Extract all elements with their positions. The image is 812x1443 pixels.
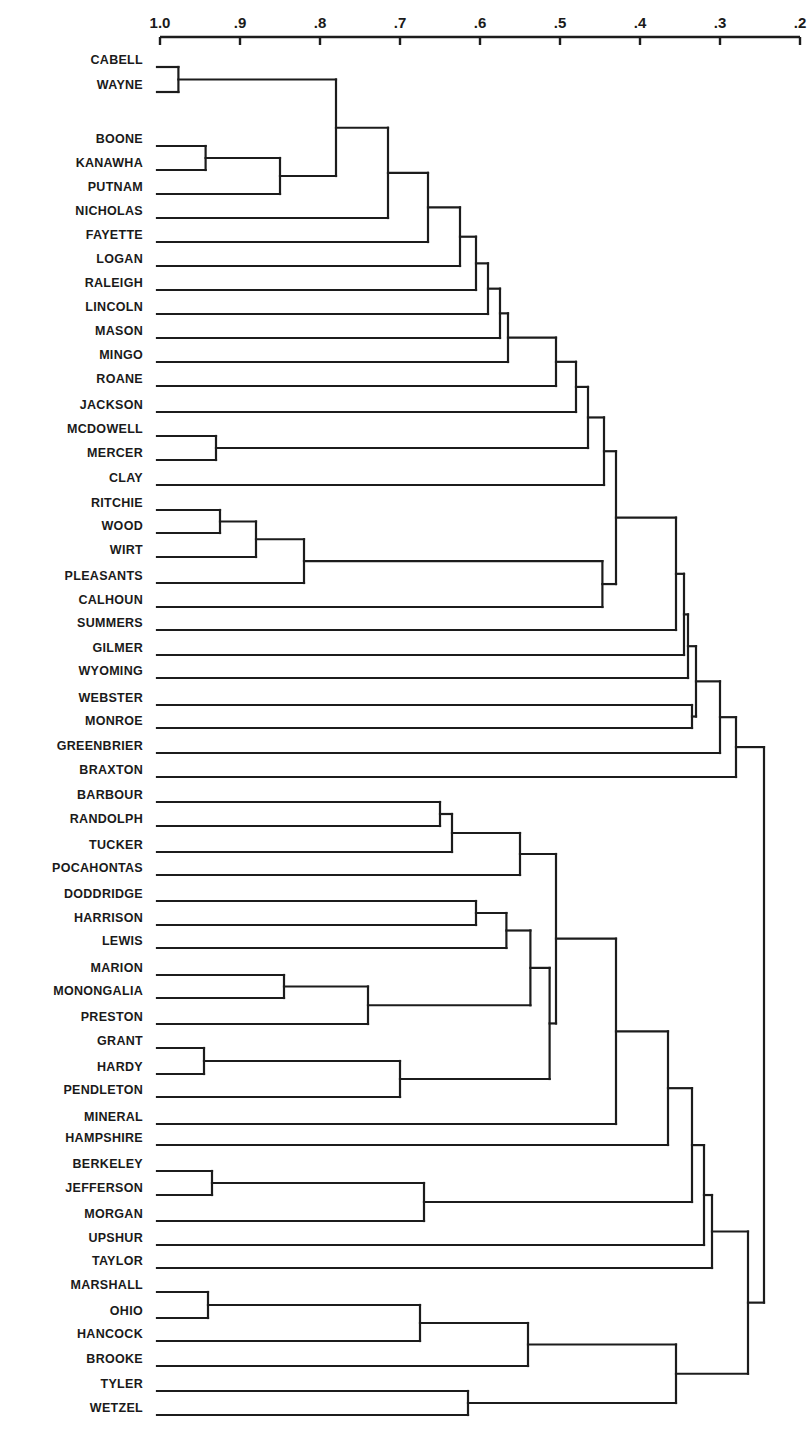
county-label: MONONGALIA — [53, 984, 143, 998]
county-label: MINGO — [99, 348, 143, 362]
county-label: WIRT — [110, 543, 143, 557]
county-label: CALHOUN — [78, 593, 143, 607]
dendrogram-chart: 1.0.9.8.7.6.5.4.3.2 CABELLWAYNEBOONEKANA… — [0, 0, 812, 1443]
axis-tick-label: .7 — [394, 14, 407, 31]
axis-tick-label: .9 — [234, 14, 247, 31]
county-label: TAYLOR — [92, 1254, 143, 1268]
county-label: LEWIS — [102, 934, 143, 948]
county-label: NICHOLAS — [75, 204, 143, 218]
county-label: GREENBRIER — [57, 739, 143, 753]
county-label: WEBSTER — [78, 691, 143, 705]
county-label: MORGAN — [84, 1207, 143, 1221]
county-label: BRAXTON — [79, 763, 143, 777]
county-label: MERCER — [87, 446, 143, 460]
axis-tick-label: .8 — [314, 14, 327, 31]
county-label: HARRISON — [74, 911, 143, 925]
county-label: HAMPSHIRE — [65, 1131, 143, 1145]
county-label: WETZEL — [90, 1401, 143, 1415]
county-label: PRESTON — [81, 1010, 143, 1024]
county-label: PENDLETON — [63, 1083, 143, 1097]
county-label: FAYETTE — [86, 228, 143, 242]
county-label: TUCKER — [89, 838, 143, 852]
county-label: CLAY — [109, 471, 143, 485]
county-label: GRANT — [97, 1034, 143, 1048]
axis-tick-label: 1.0 — [150, 14, 171, 31]
county-label: HARDY — [97, 1060, 143, 1074]
county-label: MASON — [95, 324, 143, 338]
axis-tick-label: .2 — [794, 14, 807, 31]
county-label: RANDOLPH — [70, 812, 143, 826]
county-label: JEFFERSON — [65, 1181, 143, 1195]
county-labels: CABELLWAYNEBOONEKANAWHAPUTNAMNICHOLASFAY… — [52, 53, 143, 1415]
county-label: WOOD — [102, 519, 143, 533]
county-label: HANCOCK — [77, 1327, 143, 1341]
axis-tick-label: .6 — [474, 14, 487, 31]
dendrogram-tree — [157, 67, 764, 1415]
county-label: UPSHUR — [88, 1231, 143, 1245]
axis-tick-label: .5 — [554, 14, 567, 31]
county-label: BARBOUR — [77, 788, 143, 802]
county-label: JACKSON — [80, 398, 143, 412]
county-label: KANAWHA — [76, 156, 143, 170]
county-label: GILMER — [93, 641, 143, 655]
axis-tick-label: .4 — [634, 14, 647, 31]
county-label: MINERAL — [84, 1110, 143, 1124]
county-label: LOGAN — [96, 252, 143, 266]
county-label: LINCOLN — [85, 300, 143, 314]
county-label: DODDRIDGE — [64, 887, 143, 901]
county-label: RALEIGH — [85, 276, 143, 290]
county-label: WAYNE — [97, 78, 143, 92]
county-label: MARSHALL — [70, 1278, 143, 1292]
county-label: PLEASANTS — [65, 569, 143, 583]
county-label: POCAHONTAS — [52, 861, 143, 875]
county-label: ROANE — [96, 372, 143, 386]
county-label: OHIO — [110, 1304, 143, 1318]
county-label: TYLER — [101, 1377, 143, 1391]
county-label: BERKELEY — [73, 1157, 144, 1171]
similarity-axis: 1.0.9.8.7.6.5.4.3.2 — [150, 14, 807, 45]
county-label: WYOMING — [78, 664, 143, 678]
county-label: PUTNAM — [88, 180, 143, 194]
county-label: BOONE — [96, 132, 143, 146]
axis-tick-label: .3 — [714, 14, 727, 31]
county-label: MARION — [91, 961, 144, 975]
county-label: BROOKE — [86, 1352, 143, 1366]
county-label: RITCHIE — [91, 496, 143, 510]
county-label: CABELL — [91, 53, 144, 67]
county-label: MCDOWELL — [67, 422, 143, 436]
county-label: SUMMERS — [77, 616, 143, 630]
county-label: MONROE — [85, 714, 143, 728]
